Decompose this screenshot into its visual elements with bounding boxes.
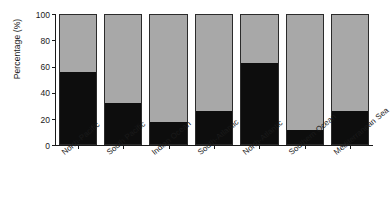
y-tick-mark — [52, 119, 55, 120]
x-tick-mark — [123, 146, 124, 149]
y-axis-title: Percentage (%) — [12, 0, 22, 104]
y-tick-mark — [52, 67, 55, 68]
x-tick-mark — [169, 146, 170, 149]
x-tick-mark — [259, 146, 260, 149]
y-tick-label: 20 — [41, 115, 52, 125]
y-tick-label: 80 — [41, 36, 52, 46]
y-tick-mark — [52, 145, 55, 146]
y-tick-label: 60 — [41, 62, 52, 72]
y-tick-20: 20 — [41, 110, 55, 128]
y-tick-80: 80 — [41, 31, 55, 49]
y-tick-60: 60 — [41, 57, 55, 75]
y-tick-0: 0 — [45, 136, 55, 154]
y-tick-100: 100 — [36, 5, 55, 23]
x-tick-mark — [350, 146, 351, 149]
y-tick-label: 40 — [41, 88, 52, 98]
y-tick-mark — [52, 40, 55, 41]
y-tick-label: 0 — [45, 141, 52, 151]
y-tick-label: 100 — [36, 10, 52, 20]
y-tick-mark — [52, 93, 55, 94]
y-tick-40: 40 — [41, 84, 55, 102]
y-tick-mark — [52, 14, 55, 15]
